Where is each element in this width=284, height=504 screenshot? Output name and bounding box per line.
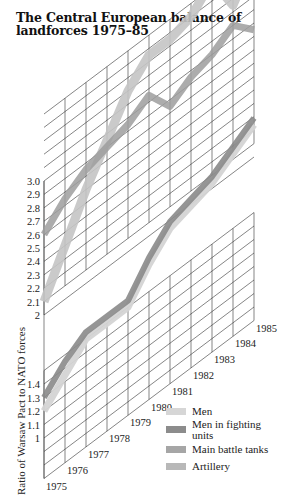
legend-swatch-men-fighting bbox=[166, 426, 186, 433]
y-tick-label: 1 bbox=[35, 433, 40, 444]
y-tick-label: 2.8 bbox=[27, 203, 40, 214]
x-tick-label: 1979 bbox=[130, 417, 151, 428]
y-tick-label: 1.2 bbox=[27, 406, 40, 417]
y-tick-label: 2.1 bbox=[27, 297, 40, 308]
x-tick-label: 1978 bbox=[109, 433, 130, 444]
x-tick-label: 1977 bbox=[88, 449, 109, 460]
y-tick-label: 2 bbox=[35, 310, 40, 321]
y-tick-label: 1.4 bbox=[27, 379, 41, 390]
y-tick-label: 1.3 bbox=[27, 393, 40, 404]
x-tick-label: 1983 bbox=[214, 354, 235, 365]
y-tick-label: 2.7 bbox=[27, 216, 40, 227]
y-tick-label: 2.3 bbox=[27, 270, 40, 281]
x-tick-label: 1984 bbox=[235, 338, 257, 349]
x-tick-label: 1975 bbox=[46, 481, 67, 492]
y-tick-label: 2.2 bbox=[27, 283, 40, 294]
legend-item-men: Men bbox=[166, 406, 284, 417]
y-tick-label: 1.1 bbox=[27, 420, 40, 431]
legend-label: Artillery bbox=[192, 461, 230, 472]
legend-label: Main battle tanks bbox=[192, 444, 268, 455]
x-tick-label: 1976 bbox=[67, 465, 88, 476]
legend-item-tanks: Main battle tanks bbox=[166, 444, 284, 455]
x-tick-label: 1985 bbox=[256, 323, 277, 334]
legend-label: Men bbox=[192, 406, 212, 417]
x-tick-label: 1982 bbox=[193, 370, 214, 381]
legend: Men Men in fighting units Main battle ta… bbox=[166, 406, 284, 475]
legend-item-men-fighting: Men in fighting units bbox=[166, 419, 284, 441]
y-tick-label: 3.0 bbox=[27, 176, 40, 187]
legend-swatch-artillery bbox=[166, 463, 186, 470]
legend-item-artillery: Artillery bbox=[166, 461, 284, 472]
legend-swatch-tanks bbox=[166, 446, 186, 453]
legend-swatch-men bbox=[166, 408, 186, 415]
y-tick-label: 2.6 bbox=[27, 230, 40, 241]
y-axis-ticks: 3.02.92.82.72.62.52.42.32.22.121.41.31.2… bbox=[27, 176, 41, 444]
y-tick-label: 2.4 bbox=[27, 256, 41, 267]
x-tick-label: 1981 bbox=[172, 386, 193, 397]
y-tick-label: 2.9 bbox=[27, 189, 40, 200]
y-axis-label: Ratio of Warsaw Pact to NATO forces bbox=[15, 327, 27, 495]
legend-label: Men in fighting units bbox=[192, 419, 284, 441]
y-tick-label: 2.5 bbox=[27, 243, 40, 254]
